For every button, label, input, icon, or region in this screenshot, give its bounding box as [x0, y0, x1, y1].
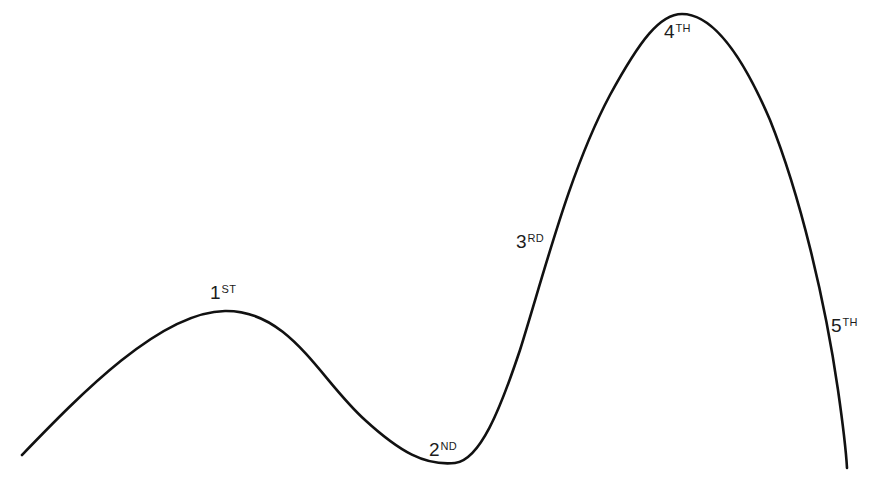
- label-number: 1: [210, 282, 221, 303]
- label-number: 2: [429, 439, 440, 460]
- label-4th: 4TH: [664, 22, 691, 41]
- label-suffix: ND: [441, 440, 458, 452]
- label-number: 3: [516, 231, 527, 252]
- label-3rd: 3RD: [516, 232, 544, 251]
- label-suffix: RD: [528, 232, 545, 244]
- label-2nd: 2ND: [429, 440, 457, 459]
- label-suffix: TH: [843, 316, 858, 328]
- label-1st: 1ST: [210, 283, 236, 302]
- label-number: 5: [831, 315, 842, 336]
- label-5th: 5TH: [831, 316, 858, 335]
- wave-curve: [22, 14, 847, 468]
- wave-diagram: [0, 0, 881, 483]
- label-suffix: ST: [222, 283, 237, 295]
- label-suffix: TH: [676, 22, 691, 34]
- label-number: 4: [664, 21, 675, 42]
